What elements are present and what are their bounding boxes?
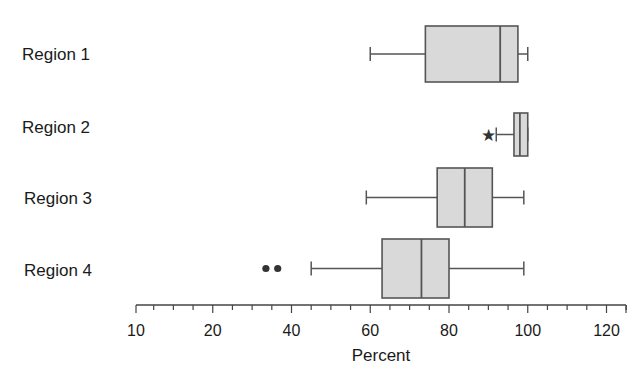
- box-iqr: [425, 26, 518, 82]
- outlier-dot: [262, 265, 269, 272]
- x-tick-label: 10: [127, 322, 145, 340]
- extreme-star-icon: ★: [481, 126, 496, 145]
- x-tick-label: 60: [361, 322, 379, 340]
- x-tick-label: 100: [514, 322, 541, 340]
- x-tick-label: 40: [283, 322, 301, 340]
- x-tick-label: 120: [593, 322, 620, 340]
- x-axis-title: Percent: [352, 346, 411, 366]
- box-iqr: [514, 113, 528, 156]
- box-iqr: [382, 239, 449, 298]
- outlier-dot: [274, 265, 281, 272]
- x-tick-label: 80: [440, 322, 458, 340]
- x-tick-label: 20: [204, 322, 222, 340]
- boxplot-chart: ★: [0, 0, 644, 383]
